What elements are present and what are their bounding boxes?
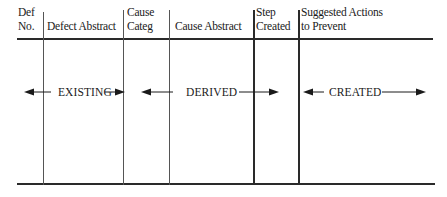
header-cause-abstract-line2: Cause Abstract (175, 19, 242, 33)
header-defect-line1 (47, 5, 116, 19)
column-divider-5 (298, 10, 300, 185)
header-suggested-line1: Suggested Actions (301, 5, 383, 19)
header-step-line2: Created (256, 19, 290, 33)
span-label-derived: DERIVED (186, 85, 237, 99)
span-label-created: CREATED (329, 85, 381, 99)
defect-analysis-form: Def No. Defect Abstract Cause Categ Caus… (0, 0, 447, 197)
header-cause-abstract-line1 (175, 5, 242, 19)
header-defect-abstract: Defect Abstract (47, 5, 116, 33)
right-arrow-icon (239, 87, 279, 97)
header-def-no: Def No. (18, 5, 35, 33)
header-defect-line2: Defect Abstract (47, 19, 116, 33)
column-divider-4 (253, 10, 255, 185)
right-arrow-icon (382, 87, 426, 97)
header-step-created: Step Created (256, 5, 290, 33)
left-arrow-icon (141, 87, 173, 97)
header-def-line2: No. (18, 19, 35, 33)
column-divider-2 (123, 10, 124, 185)
column-divider-1 (43, 12, 44, 185)
header-cause-line2: Categ (127, 19, 154, 33)
bottom-rule (17, 183, 435, 185)
header-cause-categ: Cause Categ (127, 5, 154, 33)
left-arrow-icon (303, 87, 324, 97)
header-rule (17, 38, 433, 40)
header-cause-abstract: Cause Abstract (175, 5, 242, 33)
column-divider-3 (169, 10, 170, 185)
header-suggested-actions: Suggested Actions to Prevent (301, 5, 383, 33)
header-suggested-line2: to Prevent (301, 19, 383, 33)
header-step-line1: Step (256, 5, 290, 19)
left-arrow-icon (24, 87, 52, 97)
span-label-existing: EXISTING (58, 85, 112, 99)
right-arrow-icon (105, 87, 125, 97)
header-def-line1: Def (18, 5, 35, 19)
header-cause-line1: Cause (127, 5, 154, 19)
